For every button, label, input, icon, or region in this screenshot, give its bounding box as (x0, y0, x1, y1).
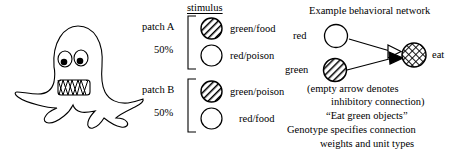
node-green-label: green (285, 65, 308, 76)
creature-pupil-right (77, 58, 84, 65)
patch-b-option-1-label: red/food (239, 114, 275, 125)
stimulus-header: stimulus (187, 3, 223, 14)
node-green (324, 59, 347, 82)
creature-pupil-left (61, 59, 68, 66)
network-caption-line-1: (empty arrow denotes (307, 84, 399, 95)
patch-a-option-0-swatch-hatched (200, 17, 224, 41)
network-graph-svg (285, 22, 454, 80)
node-eat (402, 43, 426, 67)
creature-svg (8, 12, 148, 144)
patch-b-bracket (186, 78, 198, 133)
patch-a-option-0-label: green/food (230, 24, 275, 35)
patch-b-label: patch B (142, 85, 174, 96)
patch-b-percent: 50% (154, 108, 173, 119)
patch-a-option-1-swatch-empty (200, 44, 224, 68)
node-red (325, 25, 348, 48)
stimulus-section: stimulus patch A 50% green/food red/pois… (140, 0, 290, 153)
creature-illustration (8, 12, 148, 144)
network-title: Example behavioral network (309, 6, 430, 17)
patch-b-option-0-label: green/poison (230, 87, 284, 98)
network-section: Example behavioral network (285, 0, 454, 153)
network-caption-line-5: weights and unit types (320, 139, 414, 150)
network-caption-line-2: inhibitory connection) (331, 97, 425, 108)
patch-a-label: patch A (142, 22, 174, 33)
patch-a-percent: 50% (154, 45, 173, 56)
patch-a-option-1-label: red/poison (230, 51, 274, 62)
node-red-label: red (293, 31, 306, 42)
node-eat-label: eat (432, 50, 444, 61)
edge-green-to-eat (347, 52, 403, 70)
creature-body-outline (15, 26, 143, 128)
network-caption-line-3: “Eat green objects” (326, 111, 408, 122)
patch-b-option-0-swatch-hatched (200, 80, 224, 104)
patch-b-option-1-swatch-empty (200, 107, 224, 131)
network-caption-line-4: Genotype specifies connection (287, 125, 416, 136)
figure-canvas: stimulus patch A 50% green/food red/pois… (0, 0, 454, 153)
patch-a-bracket (186, 15, 198, 70)
